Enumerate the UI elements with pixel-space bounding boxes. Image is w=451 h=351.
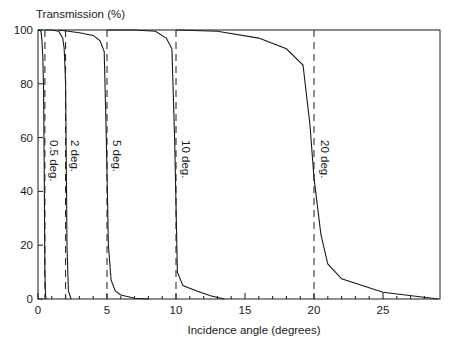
svg-text:15: 15 bbox=[239, 304, 252, 316]
curve-label-0-5: 0.5 deg. bbox=[48, 140, 60, 182]
curve-label-2: 2 deg. bbox=[69, 140, 81, 172]
transmission-curves bbox=[38, 30, 438, 299]
svg-text:5: 5 bbox=[104, 304, 110, 316]
svg-text:20: 20 bbox=[308, 304, 321, 316]
curve-label-5: 5 deg. bbox=[111, 140, 123, 172]
y-tick-label: 40 bbox=[20, 185, 33, 197]
svg-text:25: 25 bbox=[377, 304, 390, 316]
plot-frame bbox=[38, 30, 440, 299]
y-axis: 0 20 40 60 80 100 bbox=[14, 24, 43, 305]
y-tick-label: 80 bbox=[20, 78, 33, 90]
y-tick-label: 20 bbox=[20, 239, 33, 251]
y-tick-label: 100 bbox=[14, 24, 33, 36]
curve-10-deg bbox=[107, 30, 224, 299]
transmission-chart: Transmission (%) 0 20 40 60 80 100 bbox=[0, 0, 451, 351]
svg-text:10: 10 bbox=[170, 304, 183, 316]
cutoff-lines bbox=[45, 30, 314, 299]
curve-20-deg bbox=[176, 30, 438, 299]
x-axis-title: Incidence angle (degrees) bbox=[188, 324, 321, 336]
y-tick-label: 60 bbox=[20, 132, 33, 144]
curve-label-10: 10 deg. bbox=[180, 140, 192, 178]
curve-labels: 0.5 deg. 2 deg. 5 deg. 10 deg. 20 deg. bbox=[48, 140, 331, 182]
svg-text:0: 0 bbox=[35, 304, 41, 316]
x-axis bbox=[38, 293, 424, 299]
y-axis-title: Transmission (%) bbox=[36, 8, 125, 20]
x-tick-labels: 0 5 10 15 20 25 bbox=[35, 304, 390, 316]
y-tick-label: 0 bbox=[27, 293, 33, 305]
curve-label-20: 20 deg. bbox=[319, 140, 331, 178]
